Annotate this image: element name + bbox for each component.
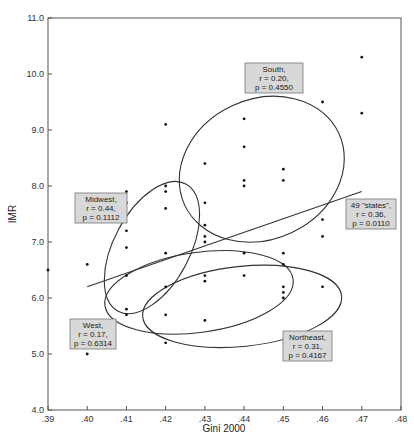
ellipse-south <box>155 70 368 269</box>
annotation-text: Midwest, <box>85 195 117 204</box>
data-point <box>243 145 246 148</box>
data-point <box>282 285 285 288</box>
data-point <box>282 179 285 182</box>
annotation-text: p = 0.0110 <box>352 219 390 228</box>
data-point <box>243 179 246 182</box>
data-point <box>164 123 167 126</box>
annotation-midwest: Midwest,r = 0.44,p = 0.1112 <box>75 193 127 223</box>
data-point <box>203 274 206 277</box>
data-point <box>125 313 128 316</box>
x-tick-label: .39 <box>42 414 55 424</box>
data-point <box>164 313 167 316</box>
data-point <box>321 101 324 104</box>
y-tick-label: 5.0 <box>31 349 44 359</box>
regression-line <box>87 192 362 287</box>
annotation-text: 49 "states", <box>351 201 391 210</box>
annotation-text: r = 0.36, <box>356 210 386 219</box>
data-point <box>282 263 285 266</box>
data-point <box>47 269 50 272</box>
data-point <box>164 185 167 188</box>
annotation-text: p = 0.4167 <box>288 351 327 360</box>
annotation-text: p = 0.6314 <box>74 339 113 348</box>
annotation-west: West,r = 0.17,p = 0.6314 <box>70 319 116 349</box>
x-tick-label: .45 <box>277 414 290 424</box>
annotation-text: r = 0.17, <box>78 330 108 339</box>
data-point <box>203 201 206 204</box>
x-tick-label: .41 <box>120 414 133 424</box>
annotation-northeast: Northeast,r = 0.31,p = 0.4167 <box>283 331 332 361</box>
x-tick-label: .46 <box>316 414 329 424</box>
annotation-text: r = 0.31, <box>293 342 323 351</box>
x-tick-label: .40 <box>81 414 94 424</box>
data-point <box>164 190 167 193</box>
annotation-south: South,r = 0.20,p = 0.4550 <box>245 63 303 93</box>
annotation-text: Northeast, <box>289 333 326 342</box>
annotation-text: r = 0.20, <box>259 74 289 83</box>
data-point <box>125 308 128 311</box>
data-point <box>282 291 285 294</box>
data-point <box>203 280 206 283</box>
y-tick-label: 6.0 <box>31 293 44 303</box>
data-point <box>164 285 167 288</box>
annotation-text: r = 0.44, <box>86 204 116 213</box>
data-point <box>203 241 206 244</box>
data-point <box>203 224 206 227</box>
y-tick-label: 8.0 <box>31 181 44 191</box>
data-point <box>243 117 246 120</box>
data-point <box>321 235 324 238</box>
data-point <box>243 252 246 255</box>
x-tick-label: .48 <box>395 414 408 424</box>
data-point <box>125 229 128 232</box>
annotation-states: 49 "states",r = 0.36,p = 0.0110 <box>346 199 396 229</box>
annotation-boxes: South,r = 0.20,p = 0.4550Midwest,r = 0.4… <box>70 63 396 361</box>
data-point <box>164 207 167 210</box>
y-tick-label: 11.0 <box>27 13 44 23</box>
data-point <box>164 252 167 255</box>
x-axis-title: Gini 2000 <box>203 423 246 434</box>
annotation-text: p = 0.4550 <box>255 83 294 92</box>
data-point <box>243 274 246 277</box>
data-point <box>86 263 89 266</box>
data-point <box>321 218 324 221</box>
annotation-text: South, <box>262 65 285 74</box>
scatter-chart: .39.40.41.42.43.44.45.46.47.484.05.06.07… <box>0 0 414 446</box>
y-tick-label: 4.0 <box>31 405 44 415</box>
fit-line <box>87 192 362 287</box>
x-tick-label: .42 <box>159 414 172 424</box>
y-tick-label: 7.0 <box>31 237 44 247</box>
data-point <box>125 190 128 193</box>
data-point <box>282 168 285 171</box>
annotation-text: p = 0.1112 <box>83 213 120 222</box>
data-point <box>282 252 285 255</box>
data-point <box>164 341 167 344</box>
data-point <box>203 162 206 165</box>
y-tick-label: 10.0 <box>26 69 44 79</box>
data-point <box>203 235 206 238</box>
y-axis-title: IMR <box>7 205 18 223</box>
data-point <box>282 297 285 300</box>
y-tick-label: 9.0 <box>31 125 44 135</box>
data-point <box>243 185 246 188</box>
data-point <box>360 112 363 115</box>
x-tick-label: .47 <box>356 414 369 424</box>
ellipse-west <box>99 240 298 346</box>
data-point <box>360 56 363 59</box>
data-point <box>125 246 128 249</box>
data-point <box>86 353 89 356</box>
annotation-text: West, <box>83 321 103 330</box>
data-point <box>321 285 324 288</box>
data-point <box>203 319 206 322</box>
data-point <box>125 274 128 277</box>
